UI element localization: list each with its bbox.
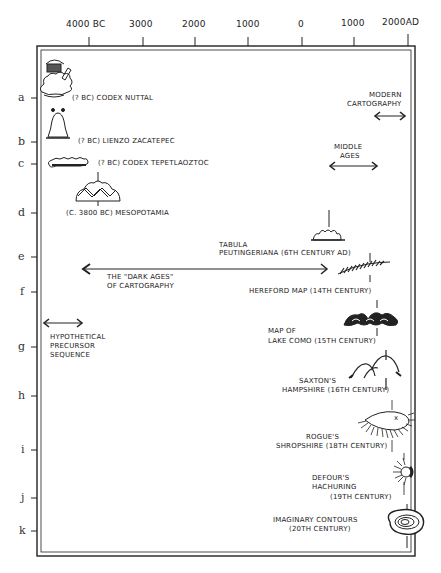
row-letter-i: i — [21, 443, 25, 456]
label-saxton-line1: SAXTON'S — [299, 377, 336, 385]
hereford-map-icon — [338, 253, 390, 282]
label-rogue-line1: ROGUE'S — [306, 433, 339, 441]
label-defour-line3: (19TH CENTURY) — [330, 493, 392, 501]
label-dark-ages-line1: THE "DARK AGES" — [107, 273, 173, 281]
label-modern-line1: MODERN — [369, 91, 402, 99]
axis-tick-3000: 3000 — [129, 20, 153, 28]
row-letter-c: c — [18, 157, 24, 170]
label-middle-line2: AGES — [340, 152, 360, 160]
label-contours-line1: IMAGINARY CONTOURS — [273, 516, 358, 524]
axis-tick-2000: 2000 — [182, 20, 206, 28]
label-codex-tepetlaoztoc: (? BC) CODEX TEPETLAOZTOC — [98, 159, 209, 167]
codex-nuttal-icon — [40, 60, 72, 97]
row-letter-k: k — [19, 524, 26, 537]
axis-tick-2000ad: 2000AD — [382, 18, 419, 26]
imaginary-contours-icon — [388, 504, 423, 548]
label-hereford: HEREFORD MAP (14TH CENTURY) — [249, 287, 371, 295]
modern-cartography-arrow — [375, 112, 405, 120]
precursor-arrow — [44, 319, 82, 327]
label-rogue-line2: SHROPSHIRE (18TH CENTURY) — [276, 442, 387, 450]
defour-hachuring-icon — [393, 453, 412, 495]
label-defour-line1: DEFOUR'S — [312, 474, 349, 482]
tabula-peutingeriana-icon — [311, 210, 345, 240]
label-lienzo-zacatepec: (? BC) LIENZO ZACATEPEC — [78, 137, 175, 145]
row-ticks — [31, 98, 37, 531]
inner-frame — [41, 50, 411, 552]
label-defour-line2: HACHURING — [312, 483, 357, 491]
label-dark-ages-line2: OF CARTOGRAPHY — [107, 282, 174, 290]
row-letter-h: h — [18, 389, 25, 402]
row-letter-e: e — [18, 250, 25, 263]
label-lake-como-line1: MAP OF — [268, 327, 296, 335]
row-letter-f: f — [20, 285, 24, 298]
lake-como-icon — [344, 300, 398, 336]
codex-tepetlaoztoc-icon — [48, 158, 88, 168]
label-tabula-line1: TABULA — [219, 241, 248, 249]
middle-ages-arrow — [330, 162, 377, 170]
lienzo-zacatepec-icon — [46, 109, 70, 139]
axis-tick-0: 0 — [298, 20, 304, 28]
saxton-hampshire-icon — [349, 350, 401, 390]
timeline-diagram: x — [0, 0, 441, 573]
label-precursor-line3: SEQUENCE — [50, 351, 90, 359]
label-middle-line1: MIDDLE — [334, 143, 362, 151]
label-precursor-line2: PRECURSOR — [50, 342, 95, 350]
axis-tick-1000: 1000 — [236, 20, 260, 28]
label-modern-line2: CARTOGRAPHY — [347, 100, 402, 108]
outer-frame — [37, 46, 415, 556]
mesopotamia-icon — [76, 172, 120, 206]
row-letter-j: j — [21, 491, 24, 504]
label-contours-line2: (20TH CENTURY) — [289, 525, 351, 533]
row-letter-d: d — [18, 206, 25, 219]
label-lake-como-line2: LAKE COMO (15TH CENTURY) — [268, 337, 376, 345]
axis-tick-4000bc: 4000 BC — [66, 20, 105, 28]
row-letter-b: b — [18, 135, 25, 148]
label-saxton-line2: HAMPSHIRE (16TH CENTURY) — [282, 386, 389, 394]
row-letter-g: g — [18, 340, 25, 353]
svg-text:x: x — [394, 414, 398, 422]
axis-tick-1000ad: 1000 — [341, 19, 365, 27]
axis-ticks — [89, 34, 408, 46]
label-mesopotamia: (C. 3800 BC) MESOPOTAMIA — [66, 209, 169, 217]
label-tabula-line2: PEUTINGERIANA (6TH CENTURY AD) — [219, 249, 351, 257]
label-precursor-line1: HYPOTHETICAL — [50, 333, 106, 341]
row-letter-a: a — [18, 91, 25, 104]
label-codex-nuttal: (? BC) CODEX NUTTAL — [72, 94, 153, 102]
